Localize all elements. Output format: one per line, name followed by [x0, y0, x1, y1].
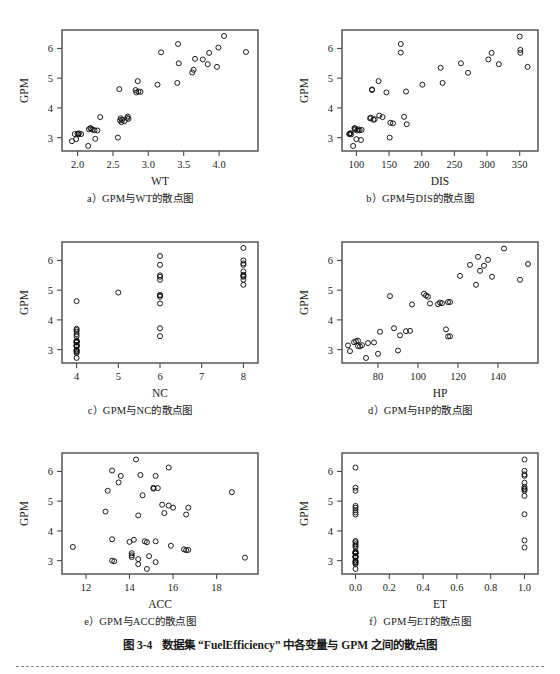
- x-axis-title: ET: [433, 598, 447, 610]
- scatter-panel-e: 121416183456ACCGPM e）GPM与ACC的散点图: [0, 431, 280, 646]
- x-tick-label: 140: [490, 371, 506, 382]
- data-point: [458, 273, 463, 278]
- data-point: [70, 544, 75, 549]
- data-point: [200, 57, 205, 62]
- panel-caption-a: a）GPM与WT的散点图: [0, 190, 280, 205]
- data-point: [364, 355, 369, 360]
- data-point: [517, 34, 522, 39]
- x-tick-label: 1.0: [518, 582, 531, 593]
- data-point: [229, 490, 234, 495]
- data-point: [105, 488, 110, 493]
- y-tick-label: 6: [48, 255, 53, 266]
- scatter-plot-a: 2.02.53.03.54.03456WTGPM: [0, 8, 280, 193]
- data-points: [69, 33, 248, 148]
- data-point: [175, 80, 180, 85]
- y-tick-label: 3: [328, 345, 333, 356]
- scatter-svg-a: 2.02.53.03.54.03456WTGPM: [0, 8, 280, 193]
- data-points: [346, 246, 531, 360]
- data-point: [376, 351, 381, 356]
- data-points: [347, 34, 530, 148]
- panel-caption-b: b）GPM与DIS的散点图: [280, 190, 560, 205]
- plot-frame: [62, 242, 258, 363]
- x-tick-label: 4: [74, 371, 80, 382]
- x-tick-label: 150: [381, 159, 397, 170]
- data-point: [526, 262, 531, 267]
- data-point: [193, 56, 198, 61]
- data-point: [134, 457, 139, 462]
- data-point: [160, 502, 165, 507]
- x-axis-title: NC: [152, 387, 168, 399]
- y-tick-label: 4: [48, 103, 54, 114]
- data-point: [518, 277, 523, 282]
- x-tick-label: 14: [124, 582, 135, 593]
- data-point: [402, 114, 407, 119]
- data-point: [98, 115, 103, 120]
- y-tick-label: 4: [48, 315, 54, 326]
- data-point: [153, 560, 158, 565]
- data-point: [348, 349, 353, 354]
- x-axis-title: DIS: [431, 175, 450, 187]
- scatter-panel-b: 1001502002503003503456DISGPM b）GPM与DIS的散…: [280, 8, 560, 223]
- data-point: [522, 512, 527, 517]
- x-tick-label: 2.0: [71, 159, 84, 170]
- data-point: [482, 263, 487, 268]
- data-point: [474, 282, 479, 287]
- x-tick-label: 18: [211, 582, 222, 593]
- y-tick-label: 5: [328, 73, 333, 84]
- scatter-svg-e: 121416183456ACCGPM: [0, 431, 280, 616]
- data-point: [74, 299, 79, 304]
- data-point: [392, 326, 397, 331]
- data-point: [117, 87, 122, 92]
- y-tick-label: 4: [328, 103, 334, 114]
- data-point: [74, 355, 79, 360]
- x-tick-label: 0.4: [417, 582, 431, 593]
- y-axis-title: GPM: [298, 290, 310, 315]
- x-tick-label: 80: [373, 371, 384, 382]
- data-point: [490, 274, 495, 279]
- x-tick-label: 8: [241, 371, 246, 382]
- data-point: [171, 505, 176, 510]
- data-point: [207, 50, 212, 55]
- scatter-plot-e: 121416183456ACCGPM: [0, 431, 280, 616]
- plot-frame: [342, 453, 538, 574]
- data-point: [372, 340, 377, 345]
- data-point: [138, 473, 143, 478]
- data-point: [153, 539, 158, 544]
- data-point: [241, 282, 246, 287]
- data-point: [353, 566, 358, 571]
- x-tick-label: 6: [157, 371, 162, 382]
- data-point: [410, 302, 415, 307]
- data-point: [222, 33, 227, 38]
- data-point: [153, 473, 158, 478]
- x-tick-label: 250: [446, 159, 462, 170]
- plot-frame: [342, 30, 538, 151]
- data-point: [205, 62, 210, 67]
- data-point: [502, 246, 507, 251]
- y-axis-title: GPM: [298, 501, 310, 526]
- y-tick-label: 5: [328, 496, 333, 507]
- panel-caption-d: d）GPM与HP的散点图: [280, 402, 560, 417]
- data-points: [70, 457, 247, 571]
- panel-caption-e: e）GPM与ACC的散点图: [0, 613, 280, 628]
- data-point: [387, 135, 392, 140]
- scatter-svg-d: 801001201403456HPGPM: [280, 220, 560, 405]
- x-tick-label: 0.0: [349, 582, 362, 593]
- figure-caption-text: 数据集 “FuelEfficiency” 中各变量与 GPM 之间的散点图: [162, 639, 437, 651]
- data-point: [184, 512, 189, 517]
- footer-divider: [16, 666, 544, 667]
- y-tick-label: 4: [328, 315, 334, 326]
- data-point: [93, 136, 98, 141]
- x-tick-label: 100: [348, 159, 364, 170]
- data-point: [522, 493, 527, 498]
- data-point: [496, 62, 501, 67]
- scatter-plot-f: 0.00.20.40.60.81.03456ETGPM: [280, 431, 560, 616]
- data-point: [376, 79, 381, 84]
- data-point: [388, 294, 393, 299]
- data-point: [110, 468, 115, 473]
- x-tick-label: 0.2: [383, 582, 396, 593]
- x-tick-label: 12: [81, 582, 92, 593]
- y-axis-title: GPM: [18, 501, 30, 526]
- data-points: [74, 245, 246, 360]
- scatter-plot-b: 1001502002503003503456DISGPM: [280, 8, 560, 193]
- data-point: [478, 268, 483, 273]
